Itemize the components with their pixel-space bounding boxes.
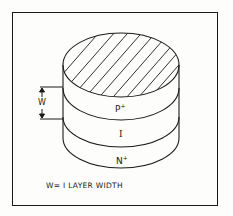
- hatching-pattern: [28, 16, 218, 114]
- p-plus-layer-label: P+: [115, 103, 125, 114]
- caption: W= I LAYER WIDTH: [46, 181, 123, 190]
- width-label: W: [38, 99, 46, 107]
- intrinsic-layer-label: I: [119, 130, 123, 139]
- n-plus-layer-label: N+: [116, 155, 128, 166]
